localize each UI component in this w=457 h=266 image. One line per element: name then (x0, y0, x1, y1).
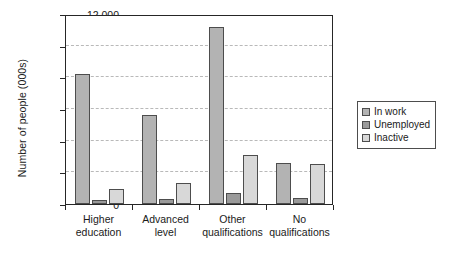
legend-item[interactable]: Unemployed (362, 119, 430, 131)
bar (243, 155, 259, 204)
legend-item[interactable]: Inactive (362, 132, 430, 144)
x-axis-label-line2: qualifications (254, 226, 346, 239)
bar (109, 189, 125, 204)
x-axis-tick-mark (199, 205, 200, 210)
legend-swatch-icon (362, 108, 370, 116)
legend-item-label: Inactive (374, 133, 408, 143)
gridline (66, 76, 332, 77)
bar (226, 193, 242, 204)
x-axis-label: Noqualifications (254, 213, 346, 239)
gridline (66, 171, 332, 172)
x-axis-label-line1: No (254, 213, 346, 226)
bar (92, 200, 108, 204)
x-axis-tick-mark (333, 205, 334, 210)
legend-item-label: In work (374, 107, 406, 117)
legend: In workUnemployedInactive (357, 101, 436, 149)
plot-area (65, 15, 333, 205)
bar (75, 74, 91, 204)
bar (209, 27, 225, 204)
bar (176, 183, 192, 204)
bar (310, 164, 326, 204)
gridline (66, 45, 332, 46)
bar (293, 198, 309, 204)
legend-item-label: Unemployed (374, 120, 430, 130)
x-axis-tick-mark (132, 205, 133, 210)
legend-item[interactable]: In work (362, 106, 430, 118)
x-axis-tick-mark (266, 205, 267, 210)
bar-chart: Number of people (000s) 0200040006000800… (0, 0, 457, 266)
legend-swatch-icon (362, 121, 370, 129)
gridline (66, 108, 332, 109)
x-axis-tick-mark (65, 205, 66, 210)
legend-swatch-icon (362, 134, 370, 142)
bar (276, 163, 292, 204)
gridline (66, 140, 332, 141)
bar (142, 115, 158, 204)
bar (159, 199, 175, 204)
